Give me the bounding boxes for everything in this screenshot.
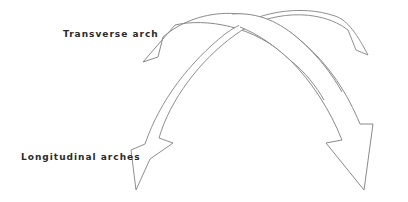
longitudinal-arches-label: Longitudinal arches bbox=[21, 152, 141, 162]
transverse-arch-label: Transverse arch bbox=[63, 29, 159, 39]
arch-arrow-right bbox=[143, 13, 373, 190]
arches-diagram bbox=[0, 0, 408, 202]
